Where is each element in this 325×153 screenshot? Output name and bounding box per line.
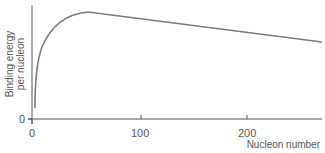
binding-energy-curve [35,12,322,108]
y-tick-label-0: 0 [19,113,25,125]
x-tick-label-100: 100 [131,127,149,139]
y-axis-label-line2: per nucleon [15,38,26,90]
x-tick-label-0: 0 [29,127,35,139]
chart: 0 0 100 200 Nucleon number Binding energ… [0,0,325,153]
x-axis-label: Nucleon number [247,139,321,150]
y-axis-label-line1: Binding energy [4,31,15,98]
x-tick-label-200: 200 [238,127,256,139]
